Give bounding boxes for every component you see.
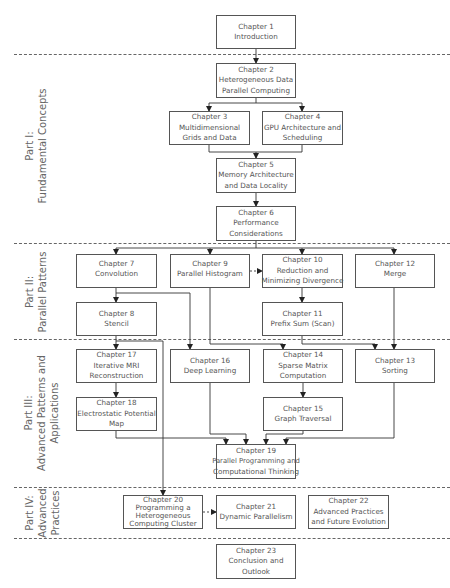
chapter-number: Chapter 1 — [238, 22, 274, 32]
chapter-13-box: Chapter 13 Sorting — [355, 349, 435, 383]
chapter-title: Convolution — [95, 269, 138, 279]
chapter-number: Chapter 3 — [192, 112, 228, 122]
chapter-title: Multidimensional — [179, 123, 240, 133]
chapter-12-box: Chapter 12 Merge — [355, 254, 435, 288]
chapter-5-box: Chapter 5 Memory Architecture and Data L… — [216, 158, 296, 193]
chapter-16-box: Chapter 16 Deep Learning — [170, 349, 250, 383]
chapter-title: GPU Architecture and — [264, 123, 341, 133]
chapter-number: Chapter 23 — [236, 546, 276, 556]
chapter-title: Performance — [233, 218, 279, 228]
chapter-title: Outlook — [242, 567, 270, 577]
chapter-title: Computation — [280, 371, 327, 381]
chapter-title: Heterogeneous Data — [219, 75, 293, 85]
chapter-19-box: Chapter 19 Parallel Programming and Comp… — [216, 444, 296, 479]
chapter-2-box: Chapter 2 Heterogeneous Data Parallel Co… — [216, 63, 296, 98]
chapter-number: Chapter 15 — [283, 404, 323, 414]
chapter-number: Chapter 16 — [190, 356, 230, 366]
chapter-title: Dynamic Parallelism — [220, 512, 293, 522]
chapter-15-box: Chapter 15 Graph Traversal — [263, 397, 343, 431]
chapter-title: Computing Cluster — [129, 520, 196, 528]
chapter-title: Minimizing Divergence — [262, 276, 344, 286]
chapter-number: Chapter 4 — [285, 112, 321, 122]
chapter-number: Chapter 10 — [282, 255, 322, 265]
chapter-9-box: Chapter 9 Parallel Histogram — [170, 254, 250, 288]
chapter-dependency-diagram: Part I: Fundamental Concepts Part II: Pa… — [0, 0, 450, 588]
chapter-title: Parallel Computing — [222, 86, 290, 96]
chapter-14-box: Chapter 14 Sparse Matrix Computation — [263, 349, 343, 383]
chapter-number: Chapter 7 — [99, 259, 135, 269]
chapter-6-box: Chapter 6 Performance Considerations — [216, 206, 296, 241]
chapter-number: Chapter 13 — [375, 356, 415, 366]
chapter-number: Chapter 14 — [283, 350, 323, 360]
chapter-title: Computational Thinking — [213, 467, 299, 477]
chapter-title: Reduction and — [277, 266, 329, 276]
chapter-number: Chapter 12 — [375, 259, 415, 269]
chapter-4-box: Chapter 4 GPU Architecture and Schedulin… — [262, 111, 343, 145]
chapter-3-box: Chapter 3 Multidimensional Grids and Dat… — [169, 111, 250, 145]
chapter-title: Electrostatic Potential — [77, 409, 155, 419]
chapter-number: Chapter 8 — [99, 309, 135, 319]
chapter-title: Deep Learning — [184, 366, 236, 376]
chapter-title: and Data Locality — [225, 181, 288, 191]
chapter-10-box: Chapter 10 Reduction and Minimizing Dive… — [262, 254, 343, 288]
chapter-title: Introduction — [234, 32, 278, 42]
chapter-23-box: Chapter 23 Conclusion and Outlook — [216, 544, 296, 579]
chapter-title: Memory Architecture — [218, 170, 294, 180]
chapter-title: Graph Traversal — [275, 414, 332, 424]
chapter-number: Chapter 21 — [236, 502, 276, 512]
chapter-18-box: Chapter 18 Electrostatic Potential Map — [76, 397, 157, 431]
chapter-title: Sorting — [382, 366, 408, 376]
chapter-number: Chapter 17 — [96, 350, 136, 360]
chapter-1-box: Chapter 1 Introduction — [216, 15, 296, 49]
chapter-number: Chapter 18 — [96, 398, 136, 408]
chapter-title: Considerations — [229, 229, 283, 239]
chapter-7-box: Chapter 7 Convolution — [76, 254, 157, 288]
chapter-title: Grids and Data — [182, 133, 236, 143]
chapter-title: and Future Evolution — [311, 517, 386, 527]
chapter-title: Conclusion and — [229, 556, 284, 566]
chapter-title: Scheduling — [283, 133, 323, 143]
chapter-title: Prefix Sum (Scan) — [271, 319, 335, 329]
chapter-22-box: Chapter 22 Advanced Practices and Future… — [308, 495, 389, 529]
chapter-number: Chapter 5 — [238, 160, 274, 170]
chapter-title: Parallel Programming and — [212, 456, 300, 466]
chapter-title: Map — [109, 419, 124, 429]
chapter-8-box: Chapter 8 Stencil — [76, 302, 157, 336]
chapter-title: Advanced Practices — [313, 507, 383, 517]
chapter-title: Parallel Histogram — [177, 269, 243, 279]
chapter-number: Chapter 11 — [282, 309, 322, 319]
chapter-number: Chapter 6 — [238, 208, 274, 218]
chapter-20-box: Chapter 20 Programming a Heterogeneous C… — [123, 495, 203, 529]
chapter-title: Sparse Matrix — [278, 361, 328, 371]
chapter-21-box: Chapter 21 Dynamic Parallelism — [216, 495, 296, 529]
chapter-number: Chapter 2 — [238, 65, 274, 75]
chapter-title: Reconstruction — [90, 371, 144, 381]
chapter-11-box: Chapter 11 Prefix Sum (Scan) — [262, 302, 343, 336]
chapter-number: Chapter 19 — [236, 446, 276, 456]
chapter-number: Chapter 9 — [192, 259, 228, 269]
chapter-number: Chapter 22 — [328, 496, 368, 506]
chapter-title: Merge — [384, 269, 406, 279]
chapter-17-box: Chapter 17 Iterative MRI Reconstruction — [76, 349, 157, 383]
chapter-title: Iterative MRI — [94, 361, 140, 371]
chapter-title: Stencil — [104, 319, 128, 329]
